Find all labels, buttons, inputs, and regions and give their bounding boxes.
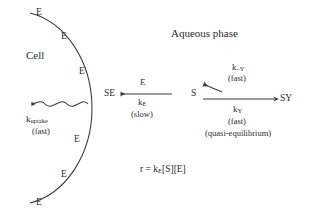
forward-binding-speed-label: (fast) — [228, 117, 246, 126]
catalysis-speed-label: (slow) — [131, 110, 153, 119]
membrane-enzyme-label: E — [36, 8, 42, 18]
species-sy-label: SY — [280, 94, 292, 104]
membrane-enzyme-label: E — [61, 32, 67, 42]
aqueous-phase-label: Aqueous phase — [171, 28, 238, 39]
species-se-label: SE — [104, 89, 115, 99]
uptake-rate-subscript: uptake — [31, 117, 48, 124]
uptake-rate-label: kuptake — [26, 115, 48, 125]
reverse-binding-speed-label: (fast) — [228, 74, 246, 83]
forward-binding-rate-subscript: Y — [238, 107, 243, 114]
catalysis-rate-label: kE — [138, 98, 146, 108]
membrane-enzyme-label: E — [74, 135, 80, 145]
rate-equation: r = kE[S][E] — [140, 165, 186, 175]
reverse-binding-rate-label: k–Y — [232, 63, 244, 73]
diagram-vector-layer — [0, 0, 312, 217]
quasi-equilibrium-note: (quasi-equilibrium) — [205, 129, 271, 138]
uptake-speed-label: (fast) — [32, 127, 50, 136]
cell-region-label: Cell — [26, 50, 44, 61]
membrane-enzyme-label: E — [79, 67, 85, 77]
species-s-label: S — [191, 89, 196, 99]
membrane-enzyme-label: E — [61, 170, 67, 180]
rate-equation-rhs: [S][E] — [162, 164, 186, 174]
catalysis-rate-subscript: E — [143, 100, 147, 107]
reverse-binding-arrow — [203, 84, 222, 92]
forward-binding-rate-label: kY — [233, 105, 242, 115]
membrane-enzyme-label: E — [36, 198, 42, 208]
reverse-binding-rate-subscript: –Y — [237, 65, 245, 72]
catalysis-reactant-label: E — [140, 78, 146, 87]
uptake-wavy-arrow — [31, 102, 88, 107]
rate-equation-lhs: r = k — [140, 164, 158, 174]
reaction-scheme-diagram: Cell Aqueous phase E E E E E E kuptake (… — [0, 0, 312, 217]
